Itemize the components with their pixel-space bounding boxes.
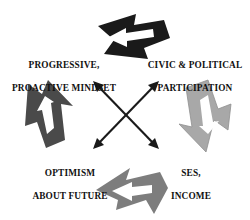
node-label-progressive-proactive-mindset: PROGRESSIVE, PROACTIVE MINDSET — [2, 48, 126, 106]
node-label-line1: SES, — [148, 168, 234, 180]
node-label-line1: PROGRESSIVE, — [2, 60, 126, 72]
node-label-line1: OPTIMISM — [18, 168, 122, 180]
node-label-civic-political-participation: CIVIC & POLITICAL PARTICIPATION — [142, 48, 248, 106]
node-label-line2: PARTICIPATION — [142, 83, 248, 95]
node-label-line1: CIVIC & POLITICAL — [142, 60, 248, 72]
node-label-line2: PROACTIVE MINDSET — [2, 83, 126, 95]
node-label-line2: ABOUT FUTURE — [18, 191, 122, 203]
node-label-line2: INCOME — [148, 191, 234, 203]
node-label-optimism-about-future: OPTIMISM ABOUT FUTURE — [18, 156, 122, 214]
diagram-canvas: PROGRESSIVE, PROACTIVE MINDSET CIVIC & P… — [0, 0, 250, 220]
node-label-ses-income: SES, INCOME — [148, 156, 234, 214]
